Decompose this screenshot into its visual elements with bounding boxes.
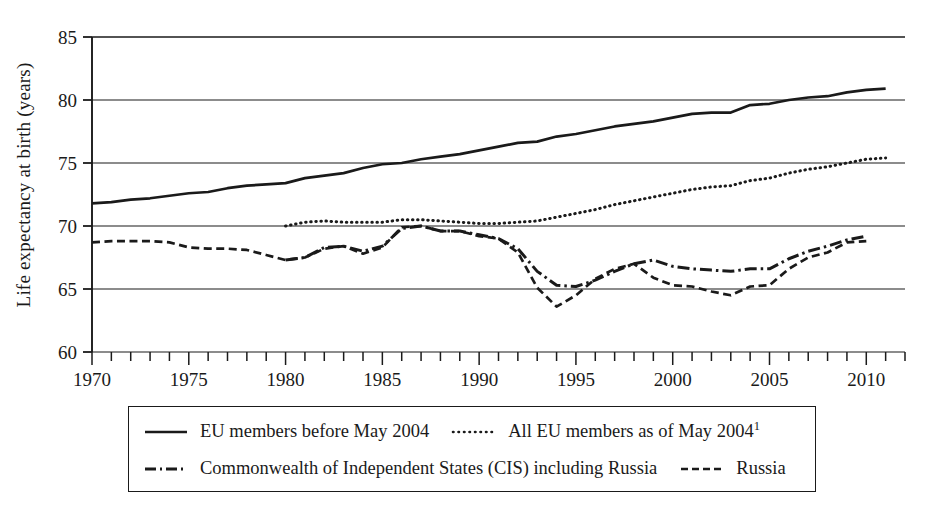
- series-line: [286, 158, 886, 226]
- svg-text:2000: 2000: [654, 369, 692, 390]
- series-line: [286, 226, 867, 286]
- svg-text:1975: 1975: [170, 369, 208, 390]
- series-line: [92, 226, 866, 307]
- svg-text:80: 80: [58, 90, 77, 111]
- legend-label-russia: Russia: [736, 459, 785, 478]
- x-tick-marks: [92, 352, 905, 365]
- legend-label-eu-before-2004: EU members before May 2004: [200, 422, 429, 441]
- gridlines: [83, 37, 905, 352]
- legend-row: EU members before May 2004 All EU member…: [143, 413, 801, 450]
- legend-label-cis: Commonwealth of Independent States (CIS)…: [200, 459, 657, 478]
- svg-text:2005: 2005: [751, 369, 789, 390]
- svg-text:2010: 2010: [847, 369, 885, 390]
- legend-entry-cis[interactable]: Commonwealth of Independent States (CIS)…: [143, 459, 657, 478]
- svg-text:1980: 1980: [267, 369, 305, 390]
- legend-swatch-dashed: [679, 462, 725, 476]
- svg-text:70: 70: [58, 216, 77, 237]
- legend-label-all-eu-2004: All EU members as of May 20041: [508, 422, 760, 441]
- legend-swatch-dotted: [451, 425, 497, 439]
- legend-swatch-solid: [143, 425, 189, 439]
- svg-text:1995: 1995: [557, 369, 595, 390]
- svg-text:65: 65: [58, 279, 77, 300]
- legend-footnote-marker: 1: [754, 419, 760, 433]
- legend-entry-all-eu-2004[interactable]: All EU members as of May 20041: [451, 422, 760, 441]
- svg-text:1970: 1970: [73, 369, 111, 390]
- data-series-layer: [92, 89, 886, 307]
- svg-text:85: 85: [58, 27, 77, 48]
- series-line: [92, 89, 886, 204]
- legend-swatch-dash-dot: [143, 462, 189, 476]
- x-tick-labels: 197019751980198519901995200020052010: [73, 369, 885, 390]
- legend-entry-eu-before-2004[interactable]: EU members before May 2004: [143, 422, 429, 441]
- chart-legend: EU members before May 2004 All EU member…: [128, 406, 816, 492]
- svg-text:75: 75: [58, 153, 77, 174]
- legend-label-all-eu-2004-text: All EU members as of May 2004: [508, 421, 754, 441]
- svg-text:1985: 1985: [363, 369, 401, 390]
- svg-text:1990: 1990: [460, 369, 498, 390]
- legend-row: Commonwealth of Independent States (CIS)…: [143, 450, 801, 487]
- svg-text:60: 60: [58, 342, 77, 363]
- y-tick-labels: 606570758085: [58, 27, 77, 363]
- legend-entry-russia[interactable]: Russia: [679, 459, 785, 478]
- chart-figure: Life expectancy at birth (years) 6065707…: [0, 0, 945, 516]
- line-chart-plot: 606570758085 197019751980198519901995200…: [0, 0, 945, 400]
